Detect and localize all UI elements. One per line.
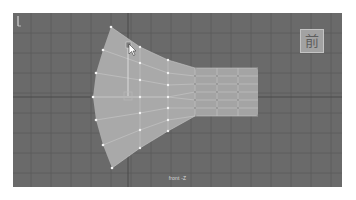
view-cube[interactable]: 前 [300,29,324,53]
camera-name-label: front -Z [13,175,342,181]
fan-surface [93,27,195,168]
mesh-object[interactable] [92,26,258,170]
axis-indicator-icon [13,13,23,27]
3d-viewport[interactable]: 前 front -Z [13,13,342,187]
viewport-scene[interactable] [13,13,342,187]
